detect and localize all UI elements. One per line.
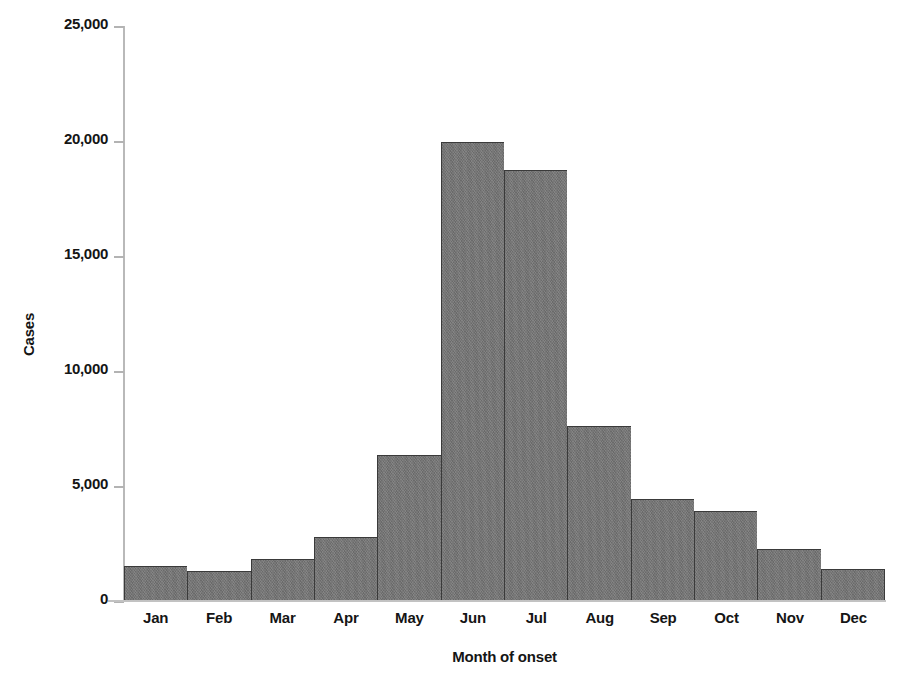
x-axis-tick-label-mar: Mar bbox=[251, 609, 314, 626]
x-axis-tick-label-jun: Jun bbox=[441, 609, 504, 626]
y-axis-tick-mark bbox=[114, 256, 124, 258]
bar-jul bbox=[504, 170, 567, 601]
y-axis-tick-label: 0 bbox=[0, 590, 108, 607]
y-axis-tick-label: 20,000 bbox=[0, 130, 108, 147]
y-axis-tick-mark bbox=[114, 141, 124, 143]
bar-may bbox=[377, 455, 440, 602]
y-axis-tick-label: 25,000 bbox=[0, 15, 108, 32]
bar-aug bbox=[567, 426, 630, 601]
x-axis-tick-label-feb: Feb bbox=[187, 609, 250, 626]
bar-series bbox=[124, 26, 885, 601]
plot-area bbox=[124, 26, 885, 601]
bar-mar bbox=[251, 559, 314, 601]
x-axis-tick-labels: JanFebMarAprMayJunJulAugSepOctNovDec bbox=[124, 609, 885, 626]
x-axis-tick-label-may: May bbox=[378, 609, 441, 626]
bar-jan bbox=[124, 566, 187, 601]
x-axis-line bbox=[108, 600, 886, 602]
y-axis-tick-mark bbox=[114, 26, 124, 28]
x-axis-tick-label-nov: Nov bbox=[758, 609, 821, 626]
y-axis-tick-label: 15,000 bbox=[0, 245, 108, 262]
bar-dec bbox=[821, 569, 885, 601]
y-axis-tick-mark bbox=[114, 486, 124, 488]
bar-chart-figure: Cases 05,00010,00015,00020,00025,000 Jan… bbox=[0, 0, 898, 681]
x-axis-tick-label-aug: Aug bbox=[568, 609, 631, 626]
bar-feb bbox=[187, 571, 250, 601]
y-axis-tick-label: 10,000 bbox=[0, 360, 108, 377]
bar-apr bbox=[314, 537, 377, 601]
x-axis-tick-label-dec: Dec bbox=[822, 609, 885, 626]
bar-oct bbox=[694, 511, 757, 601]
x-axis-tick-label-jul: Jul bbox=[505, 609, 568, 626]
bar-sep bbox=[631, 499, 694, 601]
bar-jun bbox=[441, 142, 504, 601]
x-axis-tick-label-oct: Oct bbox=[695, 609, 758, 626]
y-axis-tick-mark bbox=[114, 371, 124, 373]
bar-nov bbox=[757, 549, 820, 601]
x-axis-tick-label-sep: Sep bbox=[631, 609, 694, 626]
y-axis-tick-label: 5,000 bbox=[0, 475, 108, 492]
x-axis-tick-label-apr: Apr bbox=[314, 609, 377, 626]
x-axis-title: Month of onset bbox=[124, 648, 885, 665]
x-axis-tick-label-jan: Jan bbox=[124, 609, 187, 626]
